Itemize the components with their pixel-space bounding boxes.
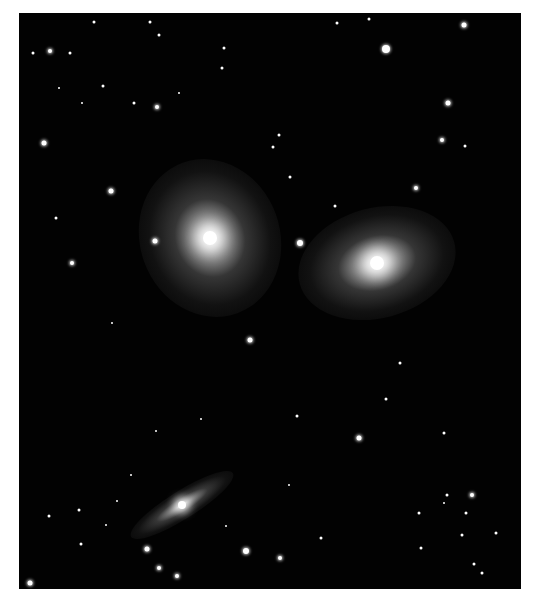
- star: [145, 547, 150, 552]
- star: [446, 101, 451, 106]
- star: [102, 85, 105, 88]
- star: [465, 512, 468, 515]
- star: [272, 146, 275, 149]
- star: [382, 45, 390, 53]
- star: [223, 47, 226, 50]
- star: [70, 261, 74, 265]
- astronomical-image: [19, 13, 521, 589]
- star: [357, 436, 362, 441]
- star: [334, 205, 337, 208]
- star: [158, 34, 161, 37]
- star: [399, 362, 402, 365]
- left-spiral-galaxy-core: [203, 231, 217, 245]
- star: [78, 509, 81, 512]
- star: [130, 474, 132, 476]
- star: [175, 574, 179, 578]
- star: [297, 240, 303, 246]
- star: [48, 515, 51, 518]
- star: [225, 525, 227, 527]
- star: [414, 186, 418, 190]
- star: [495, 532, 498, 535]
- star: [93, 21, 96, 24]
- star: [28, 581, 33, 586]
- star: [446, 494, 449, 497]
- star: [288, 484, 290, 486]
- star: [443, 502, 445, 504]
- star: [109, 189, 114, 194]
- star: [385, 398, 388, 401]
- star: [470, 493, 474, 497]
- star: [81, 102, 83, 104]
- star: [320, 537, 323, 540]
- star: [420, 547, 423, 550]
- star: [155, 105, 159, 109]
- star: [461, 534, 464, 537]
- star: [105, 524, 107, 526]
- star: [278, 556, 282, 560]
- star: [42, 141, 47, 146]
- star: [464, 145, 467, 148]
- star: [153, 239, 158, 244]
- star: [149, 21, 152, 24]
- star: [200, 418, 202, 420]
- star: [462, 23, 467, 28]
- star: [296, 415, 299, 418]
- star: [418, 512, 421, 515]
- star: [111, 322, 113, 324]
- star: [178, 92, 180, 94]
- star: [155, 430, 157, 432]
- star: [55, 217, 58, 220]
- star: [80, 543, 83, 546]
- star: [336, 22, 339, 25]
- star: [243, 548, 249, 554]
- star: [58, 87, 60, 89]
- star: [116, 500, 118, 502]
- star: [48, 49, 52, 53]
- star: [289, 176, 292, 179]
- star: [248, 338, 253, 343]
- right-spiral-galaxy-core: [370, 256, 384, 270]
- star: [440, 138, 444, 142]
- star: [133, 102, 136, 105]
- star: [157, 566, 161, 570]
- star: [443, 432, 446, 435]
- star: [221, 67, 224, 70]
- star: [32, 52, 35, 55]
- edge-on-galaxy-core: [178, 501, 186, 509]
- star: [368, 18, 371, 21]
- star: [473, 563, 476, 566]
- star: [278, 134, 281, 137]
- star: [481, 572, 484, 575]
- star: [69, 52, 72, 55]
